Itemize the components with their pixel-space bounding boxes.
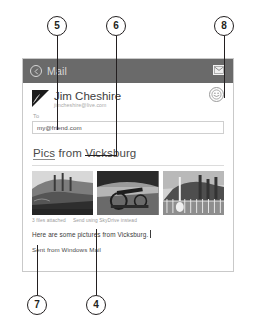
to-field-label: To	[33, 113, 224, 119]
callout-8-leader	[224, 36, 225, 98]
subject-misspelled-word: Pics	[33, 147, 55, 160]
compose-pane: Jim Cheshire jimcheshire@live.com To my@…	[23, 83, 233, 271]
callout-5-leader	[57, 36, 58, 130]
send-using-skydrive-link[interactable]: Send using SkyDrive instead	[73, 218, 137, 223]
callout-6-leader-vertical	[116, 36, 117, 156]
text-caret	[150, 230, 151, 238]
attachment-count-label: 3 files attached	[32, 218, 66, 223]
callout-8: 8	[214, 16, 234, 36]
callout-7: 7	[27, 295, 47, 315]
message-body-text: Here are some pictures from Vicksburg.	[32, 231, 148, 238]
app-title-bar: Mail	[23, 59, 233, 83]
back-arrow-icon[interactable]	[30, 65, 42, 77]
callout-4-leader	[96, 229, 97, 295]
sender-email: jimcheshire@live.com	[54, 102, 121, 109]
contact-avatar-icon	[32, 90, 49, 107]
sender-row: Jim Cheshire jimcheshire@live.com	[32, 90, 224, 109]
sender-info: Jim Cheshire jimcheshire@live.com	[54, 90, 121, 109]
attachment-thumb-1[interactable]	[32, 171, 93, 215]
callout-6-leader-horizontal	[85, 155, 116, 156]
attachment-thumbnails	[32, 171, 224, 215]
to-input-value: my@friend.com	[37, 124, 82, 131]
mail-app-window: Mail	[22, 58, 234, 272]
sender-name: Jim Cheshire	[54, 90, 121, 102]
callout-4: 4	[86, 295, 106, 315]
subject-rest: from Vicksburg	[55, 147, 136, 159]
callout-5: 5	[47, 16, 67, 36]
subject-input[interactable]: Pics from Vicksburg	[33, 143, 224, 161]
to-input[interactable]: my@friend.com	[32, 121, 224, 134]
attachment-thumb-3[interactable]	[163, 171, 224, 215]
message-signature: Sent from Windows Mail	[32, 246, 224, 253]
subject-divider	[32, 165, 224, 166]
subject-text: Pics from Vicksburg	[33, 147, 136, 160]
attachment-thumb-2[interactable]	[97, 171, 158, 215]
callout-6: 6	[106, 16, 126, 36]
more-options-icon[interactable]	[209, 87, 224, 102]
attachment-meta: 3 files attached Send using SkyDrive ins…	[32, 218, 224, 223]
callout-7-leader	[37, 245, 38, 295]
message-body[interactable]: Here are some pictures from Vicksburg.	[32, 230, 224, 238]
